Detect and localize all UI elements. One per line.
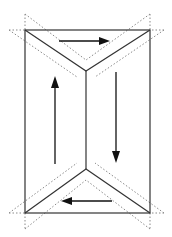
top-v-crease (25, 30, 150, 71)
bottom-v-crease (25, 169, 150, 213)
arrow-down-icon (112, 72, 120, 163)
arrow-right-icon (59, 37, 110, 45)
arrow-up-icon (51, 76, 59, 164)
dotted-guides-bottom-left (9, 163, 86, 229)
outer-rectangle (25, 30, 150, 213)
folding-diagram (0, 0, 172, 237)
arrow-left-icon (61, 197, 112, 205)
